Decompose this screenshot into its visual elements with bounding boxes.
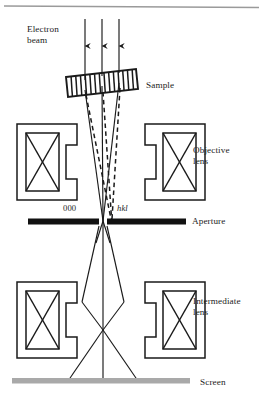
label-transmitted-spot-000: 000: [63, 203, 76, 214]
label-objective-lens: Objective lens: [193, 145, 230, 167]
intermediate-lens-left-pole: [17, 282, 77, 358]
label-aperture: Aperture: [192, 216, 225, 227]
label-diffracted-spot-hkl: hkl: [117, 203, 128, 214]
tem-ray-diagram: Electron beam Sample Objective lens Aper…: [0, 0, 263, 405]
objective-lens: [17, 124, 205, 200]
screen-bar: [12, 378, 190, 384]
intermediate-lens-right-pole: [145, 282, 205, 358]
objective-lens-left-pole: [17, 124, 77, 200]
top-rule: [4, 6, 259, 8]
label-electron-beam: Electron beam: [27, 24, 59, 46]
aperture-bar: [28, 219, 186, 225]
diagram-canvas: [0, 0, 263, 405]
label-screen: Screen: [200, 377, 226, 388]
label-sample: Sample: [146, 80, 174, 91]
transmitted-rays: [85, 83, 119, 221]
label-intermediate-lens: Intermediate lens: [193, 296, 241, 318]
lower-rays: [68, 221, 138, 381]
